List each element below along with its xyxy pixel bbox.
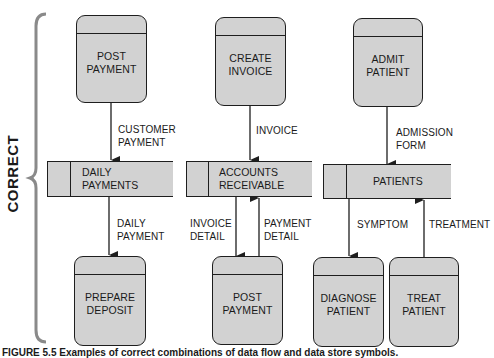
figure-caption: FIGURE 5.5 Examples of correct combinati…	[2, 347, 398, 358]
process-label: PREPARE DEPOSIT	[75, 291, 145, 317]
process-label: POST PAYMENT	[213, 291, 282, 317]
store-label-line: PAYMENTS	[82, 179, 138, 192]
store-label: ACCOUNTS RECEIVABLE	[219, 166, 284, 192]
process-header	[216, 18, 285, 36]
process-label: CREATE INVOICE	[216, 52, 285, 78]
process-label-line: POST	[213, 291, 282, 304]
flow-label-line: PAYMENT	[117, 230, 165, 243]
flow-label-line: PAYMENT	[264, 217, 312, 230]
process-label-line: TREAT	[390, 292, 458, 305]
store-label-line: ACCOUNTS	[219, 166, 284, 179]
flow-label-invoice: INVOICE	[256, 124, 298, 137]
flow-label-line: ADMISSION	[396, 126, 453, 139]
flow-label-line: DETAIL	[190, 230, 232, 243]
brace-icon	[30, 14, 46, 342]
store-divider	[70, 162, 71, 196]
store-label-line: RECEIVABLE	[219, 179, 284, 192]
process-label-line: PREPARE	[75, 291, 145, 304]
flow-label-symptom: SYMPTOM	[357, 218, 408, 231]
process-label: TREAT PATIENT	[390, 292, 458, 318]
flow-label-payment-detail: PAYMENT DETAIL	[264, 217, 312, 243]
data-store-patients: PATIENTS	[323, 164, 451, 199]
store-label: DAILY PAYMENTS	[82, 166, 138, 192]
process-label-line: PAYMENT	[213, 304, 282, 317]
flow-label-line: DAILY	[117, 217, 165, 230]
data-store-daily-payments: DAILY PAYMENTS	[47, 161, 173, 197]
flow-label-customer-payment: CUSTOMER PAYMENT	[118, 123, 176, 149]
process-header	[77, 16, 146, 34]
flow-label-invoice-detail: INVOICE DETAIL	[190, 217, 232, 243]
process-label-line: PATIENT	[314, 305, 383, 318]
process-label-line: POST	[77, 50, 146, 63]
store-label-line: PATIENTS	[373, 175, 423, 188]
process-header	[213, 257, 282, 275]
process-header	[354, 19, 422, 37]
process-label: DIAGNOSE PATIENT	[314, 292, 383, 318]
flow-label-line: SYMPTOM	[357, 218, 408, 231]
flow-label-line: INVOICE	[190, 217, 232, 230]
flow-label-line: DETAIL	[264, 230, 312, 243]
process-label-line: ADMIT	[354, 53, 422, 66]
flow-label-line: INVOICE	[256, 124, 298, 137]
store-divider	[208, 162, 209, 196]
store-divider	[346, 165, 347, 198]
process-header	[314, 258, 383, 276]
flow-label-line: CUSTOMER	[118, 123, 176, 136]
flow-label-line: FORM	[396, 139, 453, 152]
flow-label-daily-payment: DAILY PAYMENT	[117, 217, 165, 243]
flow-label-line: PAYMENT	[118, 136, 176, 149]
process-treat-patient: TREAT PATIENT	[389, 257, 459, 347]
process-label-line: PATIENT	[390, 305, 458, 318]
process-header	[390, 258, 458, 276]
process-label-line: PATIENT	[354, 66, 422, 79]
process-create-invoice: CREATE INVOICE	[215, 17, 286, 106]
process-label: ADMIT PATIENT	[354, 53, 422, 79]
flow-label-treatment: TREATMENT	[429, 218, 490, 231]
process-label-line: DIAGNOSE	[314, 292, 383, 305]
data-store-accounts-receivable: ACCOUNTS RECEIVABLE	[186, 161, 312, 197]
store-label: PATIENTS	[373, 175, 423, 188]
process-label: POST PAYMENT	[77, 50, 146, 76]
store-label-line: DAILY	[82, 166, 138, 179]
flow-label-admission-form: ADMISSION FORM	[396, 126, 453, 152]
process-label-line: INVOICE	[216, 65, 285, 78]
process-post-payment-2: POST PAYMENT	[212, 256, 283, 345]
process-admit-patient: ADMIT PATIENT	[353, 18, 423, 107]
side-label-correct: CORRECT	[4, 141, 21, 213]
process-label-line: DEPOSIT	[75, 304, 145, 317]
process-post-payment: POST PAYMENT	[76, 15, 147, 103]
process-prepare-deposit: PREPARE DEPOSIT	[74, 256, 146, 346]
process-header	[75, 257, 145, 275]
flow-label-line: TREATMENT	[429, 218, 490, 231]
process-label-line: PAYMENT	[77, 63, 146, 76]
process-diagnose-patient: DIAGNOSE PATIENT	[313, 257, 384, 347]
process-label-line: CREATE	[216, 52, 285, 65]
